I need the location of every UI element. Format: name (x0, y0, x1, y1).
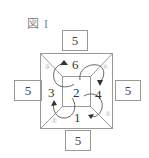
face-label-center: 2 (73, 86, 80, 99)
arrowhead-down-right-icon (97, 80, 103, 86)
frustum-diagram (0, 0, 149, 158)
face-label-right: 4 (95, 88, 102, 101)
face-label-bottom: 1 (74, 111, 81, 124)
corner-label-bottom-right: ① (104, 110, 112, 118)
arc-top-left (54, 64, 74, 87)
corner-label-top-right: ④ (101, 63, 109, 71)
corner-label-top-left: ③ (43, 63, 51, 71)
arc-bottom-left (53, 98, 74, 118)
corner-label-bottom-left: ② (50, 117, 58, 125)
arrowhead-up-icon (60, 60, 68, 65)
face-label-top: 6 (72, 58, 79, 71)
face-label-left: 3 (48, 86, 55, 99)
arrowhead-left-icon (51, 100, 57, 106)
